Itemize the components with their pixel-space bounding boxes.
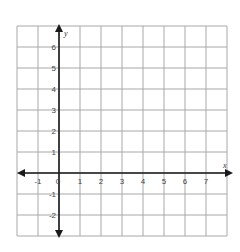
- y-axis-label: y: [63, 29, 68, 38]
- x-axis-arrow-left-icon: [17, 169, 25, 177]
- x-tick-label: 4: [141, 177, 146, 186]
- x-tick-label: 1: [78, 177, 83, 186]
- coordinate-plane: -101234567-2-1123456 x y: [0, 0, 240, 252]
- y-tick-label: 5: [52, 64, 57, 73]
- y-axis-arrow-down-icon: [55, 230, 63, 238]
- y-tick-label: 3: [52, 106, 57, 115]
- y-tick-label: -1: [49, 190, 57, 199]
- origin-label: 0: [56, 177, 61, 186]
- x-tick-label: 2: [99, 177, 104, 186]
- x-tick-label: 7: [204, 177, 209, 186]
- x-tick-label: 3: [120, 177, 125, 186]
- x-tick-label: 6: [183, 177, 188, 186]
- x-axis-label: x: [222, 161, 227, 170]
- y-tick-label: -2: [49, 211, 57, 220]
- x-tick-label: -1: [34, 177, 42, 186]
- y-tick-label: 1: [52, 148, 57, 157]
- x-tick-label: 5: [162, 177, 167, 186]
- grid-lines: [17, 26, 227, 236]
- x-axis-arrow-right-icon: [225, 169, 233, 177]
- y-tick-label: 4: [52, 85, 57, 94]
- y-tick-label: 2: [52, 127, 57, 136]
- y-axis-arrow-up-icon: [55, 24, 63, 32]
- y-tick-label: 6: [52, 43, 57, 52]
